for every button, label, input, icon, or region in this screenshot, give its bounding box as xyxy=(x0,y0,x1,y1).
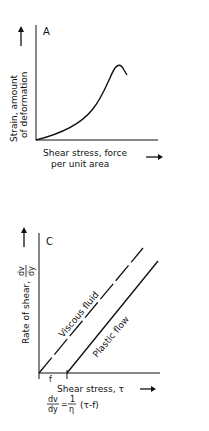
svg-text:dy: dy xyxy=(48,405,58,414)
panel-label-c: C xyxy=(46,236,53,247)
y-axis-label-a: Strain, amount of deformation xyxy=(9,71,29,142)
right-arrow-icon xyxy=(146,154,163,160)
x-axis-label-a-line1: Shear stress, force xyxy=(43,148,128,158)
panel-a: A Strain, amount of deformation Shear st… xyxy=(9,25,163,169)
x-axis-label-a-line2: per unit area xyxy=(51,159,109,169)
svg-text:Rate of shear,: Rate of shear, xyxy=(21,281,31,344)
panel-c: C Viscous fluid Plastic flow f Rate of s… xyxy=(17,227,160,414)
svg-text:dv: dv xyxy=(17,266,26,276)
up-arrow-icon xyxy=(21,227,27,247)
svg-text:dy: dy xyxy=(27,266,36,276)
panel-label-a: A xyxy=(43,26,50,37)
svg-text:of deformation: of deformation xyxy=(19,71,29,138)
figure: A Strain, amount of deformation Shear st… xyxy=(0,0,209,431)
svg-text:η: η xyxy=(69,405,74,414)
svg-text:dv: dv xyxy=(48,395,58,404)
y-axis-label-c: Rate of shear, dv dy xyxy=(17,265,36,344)
up-arrow-icon xyxy=(18,26,24,46)
x-axis-label-c: Shear stress, τ xyxy=(57,384,124,394)
svg-text:=: = xyxy=(61,400,68,409)
tick-label-f: f xyxy=(49,375,52,384)
right-arrow-icon xyxy=(140,386,156,392)
svg-text:Strain, amount: Strain, amount xyxy=(9,74,19,142)
strain-curve xyxy=(36,65,127,140)
svg-text:(τ-f): (τ-f) xyxy=(80,400,99,410)
svg-text:1: 1 xyxy=(70,395,75,404)
viscous-fluid-label: Viscous fluid xyxy=(57,290,101,340)
equation: dv dy = 1 η (τ-f) xyxy=(47,395,99,414)
